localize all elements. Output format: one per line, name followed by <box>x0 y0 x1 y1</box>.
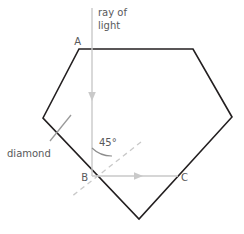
angle-label-45: 45° <box>99 137 117 148</box>
vertex-label-b: B <box>81 172 88 183</box>
normal-dashed-line <box>71 142 141 197</box>
optics-diagram: ray of light A B C 45° diamond <box>0 0 244 234</box>
ray-of-light-label-line2: light <box>98 20 120 31</box>
angle-arc <box>92 148 112 156</box>
figure-canvas: ray of light A B C 45° diamond <box>0 0 244 234</box>
diamond-prism-outline <box>43 49 232 219</box>
incident-ray-arrow-icon <box>88 92 96 101</box>
vertex-label-a: A <box>74 36 81 47</box>
ray-of-light-label-line1: ray of <box>98 7 127 18</box>
refracted-ray-arrow-icon <box>134 172 143 180</box>
vertex-label-c: C <box>181 172 188 183</box>
diamond-material-label: diamond <box>7 148 51 159</box>
